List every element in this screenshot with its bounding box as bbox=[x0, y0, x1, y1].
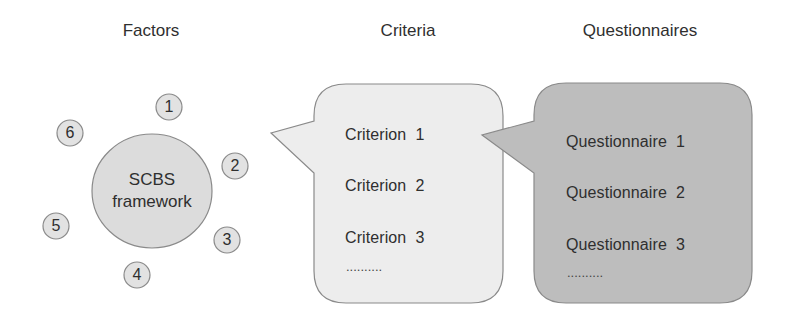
criterion-item-1: Criterion 1 bbox=[345, 126, 424, 144]
factor-label-6: 6 bbox=[57, 120, 83, 146]
questionnaires-ellipsis: .......... bbox=[567, 265, 603, 280]
questionnaires-heading: Questionnaires bbox=[583, 21, 697, 41]
factors-heading: Factors bbox=[123, 21, 180, 41]
factor-label-5: 5 bbox=[43, 213, 69, 239]
diagram-canvas bbox=[0, 0, 792, 319]
questionnaire-item-3: Questionnaire 3 bbox=[566, 236, 685, 254]
criteria-heading: Criteria bbox=[381, 21, 436, 41]
criterion-item-3: Criterion 3 bbox=[345, 229, 424, 247]
questionnaire-item-1: Questionnaire 1 bbox=[566, 133, 685, 151]
framework-label-line1: SCBS bbox=[112, 169, 191, 191]
criterion-item-2: Criterion 2 bbox=[345, 177, 424, 195]
factor-label-4: 4 bbox=[124, 262, 150, 288]
criteria-ellipsis: .......... bbox=[346, 259, 382, 274]
questionnaire-item-2: Questionnaire 2 bbox=[566, 184, 685, 202]
factor-label-2: 2 bbox=[222, 153, 248, 179]
framework-label-line2: framework bbox=[112, 191, 191, 213]
factor-label-1: 1 bbox=[156, 94, 182, 120]
factor-label-3: 3 bbox=[214, 227, 240, 253]
framework-label: SCBS framework bbox=[112, 169, 191, 213]
